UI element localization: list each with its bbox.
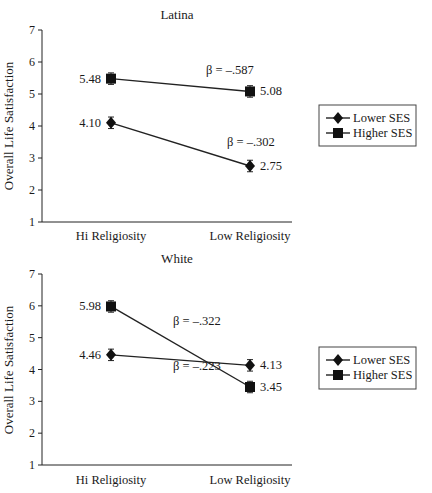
data-label: 5.08	[260, 84, 282, 98]
square-marker-icon	[245, 382, 255, 392]
data-label: 4.13	[260, 358, 282, 372]
data-label: 2.75	[260, 159, 282, 173]
x-tick-label: Low Religiosity	[210, 473, 292, 487]
y-tick-label: 6	[29, 55, 35, 69]
data-label: 5.98	[79, 299, 101, 313]
y-tick-label: 7	[29, 267, 35, 281]
y-tick-label: 5	[29, 87, 35, 101]
x-tick-label: Hi Religiosity	[76, 229, 147, 243]
square-marker-icon	[106, 301, 116, 311]
y-tick-label: 3	[29, 151, 35, 165]
y-axis-label: Overall Life Satisfaction	[1, 305, 16, 434]
diamond-marker-icon	[245, 359, 255, 371]
legend-square-icon	[333, 128, 343, 138]
x-tick-label: Hi Religiosity	[76, 473, 147, 487]
x-tick-label: Low Religiosity	[210, 229, 292, 243]
y-tick-label: 1	[29, 215, 35, 229]
series-lower-ses: 4.464.13β = –.223	[79, 348, 282, 373]
diamond-marker-icon	[245, 160, 255, 172]
chart-canvas: Latina1234567Overall Life SatisfactionHi…	[0, 0, 432, 493]
y-tick-label: 3	[29, 394, 35, 408]
beta-annotation: β = –.302	[227, 135, 275, 149]
chart-title: Latina	[160, 7, 193, 22]
legend-label: Higher SES	[353, 126, 412, 140]
data-label: 5.48	[79, 72, 101, 86]
y-axis-label: Overall Life Satisfaction	[1, 61, 16, 190]
series-higher-ses: 5.983.45β = –.322	[79, 299, 282, 394]
y-tick-label: 5	[29, 331, 35, 345]
y-tick-label: 2	[29, 183, 35, 197]
chart-title: White	[161, 251, 193, 266]
y-tick-label: 7	[29, 23, 35, 37]
figure: Latina1234567Overall Life SatisfactionHi…	[0, 0, 432, 493]
legend-label: Lower SES	[353, 353, 410, 367]
beta-annotation: β = –.322	[173, 314, 221, 328]
legend: Lower SESHigher SES	[319, 105, 416, 146]
series-line	[111, 79, 250, 92]
square-marker-icon	[106, 74, 116, 84]
beta-annotation: β = –.587	[206, 63, 254, 77]
y-tick-label: 1	[29, 458, 35, 472]
series-higher-ses: 5.485.08β = –.302	[79, 72, 282, 149]
y-tick-label: 6	[29, 299, 35, 313]
legend-square-icon	[333, 370, 343, 380]
data-label: 3.45	[260, 380, 282, 394]
y-tick-label: 4	[29, 119, 35, 133]
y-tick-label: 2	[29, 426, 35, 440]
y-tick-label: 4	[29, 363, 35, 377]
legend: Lower SESHigher SES	[319, 347, 416, 389]
data-label: 4.10	[79, 116, 101, 130]
legend-label: Lower SES	[353, 111, 410, 125]
diamond-marker-icon	[106, 349, 116, 361]
square-marker-icon	[245, 86, 255, 96]
legend-label: Higher SES	[353, 368, 412, 382]
chart-panel-white: White1234567Overall Life SatisfactionHi …	[1, 251, 416, 487]
diamond-marker-icon	[106, 117, 116, 129]
data-label: 4.46	[79, 348, 101, 362]
chart-panel-latina: Latina1234567Overall Life SatisfactionHi…	[1, 7, 416, 243]
